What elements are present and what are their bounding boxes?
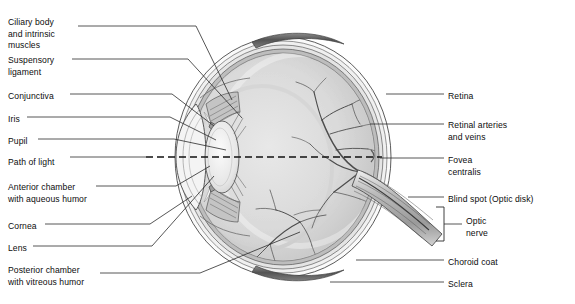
- label-iris: Iris: [8, 114, 20, 126]
- label-ciliary-body: Ciliary body and intrinsic muscles: [8, 17, 55, 52]
- eye-anatomy-diagram: Ciliary body and intrinsic muscles Suspe…: [0, 0, 575, 304]
- label-path-of-light: Path of light: [8, 157, 55, 169]
- label-lens: Lens: [8, 243, 27, 255]
- label-pupil: Pupil: [8, 136, 28, 148]
- label-cornea: Cornea: [8, 221, 37, 233]
- label-optic-nerve: Optic nerve: [466, 216, 488, 239]
- label-choroid-coat: Choroid coat: [448, 257, 498, 269]
- label-retina: Retina: [448, 91, 473, 103]
- label-fovea-centralis: Fovea centralis: [448, 155, 481, 178]
- label-anterior-chamber: Anterior chamber with aqueous humor: [8, 182, 87, 205]
- label-suspensory-ligament: Suspensory ligament: [8, 55, 54, 78]
- label-posterior-chamber: Posterior chamber with vitreous humor: [8, 265, 84, 288]
- lens: [205, 121, 239, 193]
- label-conjunctiva: Conjunctiva: [8, 91, 54, 103]
- label-blind-spot: Blind spot (Optic disk): [448, 194, 534, 206]
- label-retinal-vessels: Retinal arteries and veins: [448, 120, 507, 143]
- label-sclera: Sclera: [448, 279, 473, 291]
